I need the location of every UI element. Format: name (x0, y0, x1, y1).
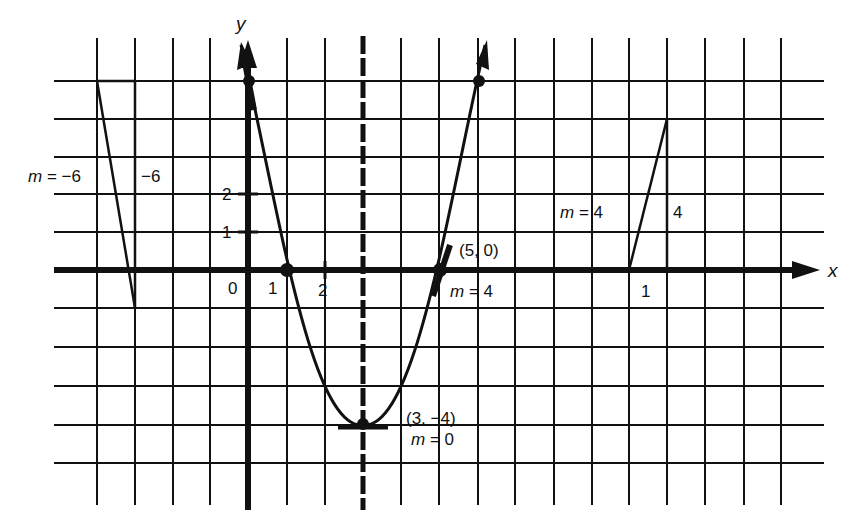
slope-m: m (411, 430, 425, 449)
slope-m: m (28, 167, 42, 186)
point-curve-top-right (473, 75, 485, 87)
left-triangle-rise-label: −6 (141, 168, 160, 185)
right-triangle-run-label: 1 (641, 283, 650, 300)
point-y-intercept (243, 75, 255, 87)
y-tick-2-label: 2 (222, 186, 231, 203)
x-axis-arrow-icon (792, 261, 820, 279)
origin-label: 0 (228, 280, 237, 297)
slope-value: = 4 (464, 282, 493, 301)
slope-value: = 0 (425, 430, 454, 449)
y-axis-label: y (236, 14, 246, 33)
vertex-slope-label: m = 0 (411, 431, 454, 448)
point-root-1 (280, 263, 294, 277)
point-root-5 (433, 263, 447, 277)
right-triangle-slope-label: m = 4 (560, 204, 603, 221)
vertex-point-label: (3, −4) (406, 410, 456, 427)
left-triangle-slope-label: m = −6 (28, 168, 81, 185)
x-axis-label: x (828, 261, 838, 280)
slope-value: = −6 (42, 167, 81, 186)
x-tick-1-label: 1 (268, 280, 277, 297)
slope-m: m (450, 282, 464, 301)
root-point-label: (5, 0) (459, 242, 499, 259)
right-triangle-rise-label: 4 (673, 204, 682, 221)
parabola-diagram (0, 0, 860, 529)
slope-value: = 4 (574, 203, 603, 222)
point-vertex (357, 418, 369, 430)
x-tick-2-label: 2 (318, 282, 327, 299)
y-tick-1-label: 1 (222, 224, 231, 241)
slope-m: m (560, 203, 574, 222)
root-slope-label: m = 4 (450, 283, 493, 300)
